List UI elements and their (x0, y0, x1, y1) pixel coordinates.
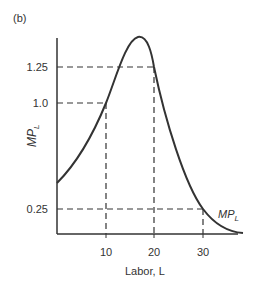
x-tick-20: 20 (139, 247, 169, 258)
mpl-chart (0, 0, 270, 295)
y-axis-label: MPL (26, 124, 41, 146)
y-tick-1-25: 1.25 (8, 62, 48, 73)
y-tick-1-0: 1.0 (8, 98, 48, 109)
x-tick-30: 30 (188, 247, 218, 258)
mpl-curve (57, 37, 243, 233)
x-axis-label: Labor, L (125, 266, 165, 277)
curve-label: MPL (218, 209, 239, 223)
y-tick-0-25: 0.25 (8, 204, 48, 215)
dashed-guides (57, 67, 203, 234)
x-tick-10: 10 (91, 247, 121, 258)
